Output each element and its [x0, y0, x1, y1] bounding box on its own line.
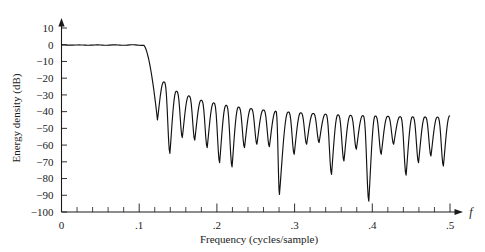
x-axis-title: Frequency (cycles/sample) — [200, 233, 319, 246]
x-axis-variable-label: f — [469, 205, 474, 219]
y-tick-label-5: −40 — [36, 105, 54, 117]
energy-density-curve — [62, 45, 450, 201]
x-tick-label-4: .4 — [368, 219, 377, 231]
x-tick-label-2: .2 — [213, 219, 221, 231]
x-tick-label-5: .5 — [446, 219, 455, 231]
y-tick-label-3: −20 — [36, 72, 54, 84]
y-tick-label-9: −80 — [36, 172, 54, 184]
y-tick-label-11: −100 — [31, 206, 54, 218]
y-axis-ticks — [62, 28, 68, 212]
x-tick-label-1: .1 — [135, 219, 143, 231]
y-tick-label-10: −90 — [36, 189, 54, 201]
y-axis-arrow-icon — [58, 18, 64, 27]
y-tick-label-0: 10 — [43, 22, 55, 34]
x-tick-label-0: 0 — [59, 219, 65, 231]
y-axis-title: Energy density (dB) — [10, 73, 23, 162]
y-tick-label-6: −50 — [36, 122, 54, 134]
x-tick-label-3: .3 — [290, 219, 299, 231]
y-tick-label-1: 0 — [48, 39, 54, 51]
y-tick-label-8: −70 — [36, 156, 54, 168]
y-tick-label-2: −10 — [36, 55, 54, 67]
x-axis-arrow-icon — [455, 209, 464, 215]
x-axis-tick-labels: 0.1.2.3.4.5 — [59, 219, 455, 231]
y-tick-label-4: −30 — [36, 89, 54, 101]
y-axis-tick-labels: 100−10−20−30−40−50−60−70−80−90−100 — [31, 22, 54, 218]
figure-container: 100−10−20−30−40−50−60−70−80−90−100 0.1.2… — [0, 0, 485, 252]
energy-density-spectrum-chart: 100−10−20−30−40−50−60−70−80−90−100 0.1.2… — [0, 0, 485, 252]
x-axis-ticks — [62, 204, 451, 213]
y-tick-label-7: −60 — [36, 139, 54, 151]
